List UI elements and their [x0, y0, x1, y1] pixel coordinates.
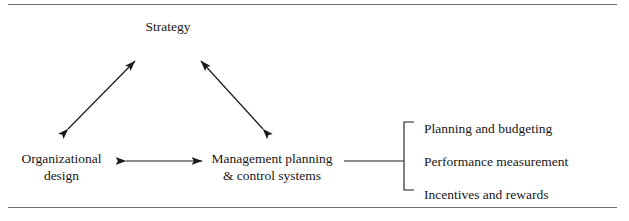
node-strategy: Strategy [108, 18, 228, 35]
strategy-diagram-figure: Strategy Organizational design Managemen… [0, 0, 629, 221]
bracket-shape [404, 122, 414, 190]
bracket-item-incentives-and-rewards: Incentives and rewards [424, 186, 624, 203]
node-organizational-design: Organizational design [4, 150, 119, 184]
arrow-management-strategy [201, 61, 263, 129]
bracket-item-performance-measurement: Performance measurement [424, 153, 624, 170]
bracket-item-planning-and-budgeting: Planning and budgeting [424, 120, 624, 137]
node-management-planning-control-systems: Management planning & control systems [198, 150, 346, 184]
arrow-org-design-strategy [68, 61, 135, 129]
